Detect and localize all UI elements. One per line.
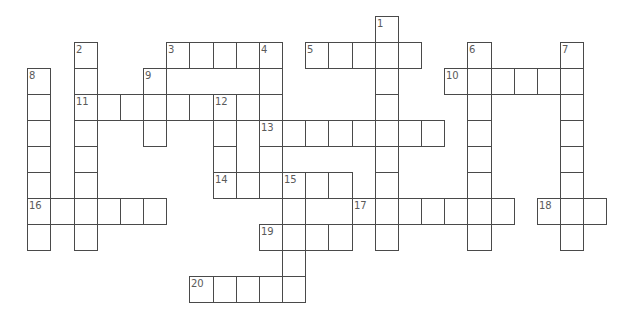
crossword-cell[interactable]: [328, 120, 353, 147]
cell-letter-input[interactable]: [214, 43, 236, 68]
crossword-cell[interactable]: 3: [166, 42, 190, 69]
cell-letter-input[interactable]: [75, 225, 97, 250]
crossword-cell[interactable]: [97, 94, 121, 121]
cell-letter-input[interactable]: [561, 43, 583, 68]
crossword-cell[interactable]: [305, 172, 329, 199]
crossword-cell[interactable]: [375, 198, 399, 225]
crossword-cell[interactable]: 2: [74, 42, 98, 69]
cell-letter-input[interactable]: [283, 277, 305, 302]
crossword-cell[interactable]: [467, 172, 492, 199]
crossword-cell[interactable]: [398, 198, 422, 225]
crossword-cell[interactable]: 4: [259, 42, 283, 69]
crossword-cell[interactable]: [305, 224, 329, 251]
crossword-cell[interactable]: 17: [352, 198, 376, 225]
crossword-cell[interactable]: [74, 146, 98, 173]
crossword-cell[interactable]: [213, 146, 237, 173]
cell-letter-input[interactable]: [75, 69, 97, 94]
crossword-cell[interactable]: [259, 94, 283, 121]
cell-letter-input[interactable]: [376, 173, 398, 198]
cell-letter-input[interactable]: [561, 173, 583, 198]
crossword-cell[interactable]: [352, 42, 376, 69]
crossword-cell[interactable]: [514, 68, 538, 95]
cell-letter-input[interactable]: [561, 199, 583, 224]
cell-letter-input[interactable]: [214, 277, 236, 302]
crossword-cell[interactable]: [467, 94, 492, 121]
cell-letter-input[interactable]: [28, 199, 50, 224]
cell-letter-input[interactable]: [51, 199, 74, 224]
crossword-cell[interactable]: [236, 94, 260, 121]
crossword-cell[interactable]: [259, 172, 283, 199]
cell-letter-input[interactable]: [260, 277, 282, 302]
crossword-cell[interactable]: [282, 250, 306, 277]
crossword-cell[interactable]: 20: [189, 276, 214, 303]
crossword-cell[interactable]: [398, 120, 422, 147]
cell-letter-input[interactable]: [468, 225, 491, 250]
cell-letter-input[interactable]: [260, 173, 282, 198]
cell-letter-input[interactable]: [190, 95, 213, 120]
cell-letter-input[interactable]: [214, 147, 236, 172]
cell-letter-input[interactable]: [329, 121, 352, 146]
crossword-cell[interactable]: [328, 42, 353, 69]
cell-letter-input[interactable]: [376, 121, 398, 146]
crossword-cell[interactable]: [50, 198, 75, 225]
crossword-cell[interactable]: [74, 68, 98, 95]
cell-letter-input[interactable]: [75, 121, 97, 146]
cell-letter-input[interactable]: [561, 225, 583, 250]
cell-letter-input[interactable]: [98, 95, 120, 120]
cell-letter-input[interactable]: [329, 43, 352, 68]
cell-letter-input[interactable]: [237, 277, 259, 302]
crossword-cell[interactable]: [97, 198, 121, 225]
crossword-cell[interactable]: [213, 276, 237, 303]
cell-letter-input[interactable]: [190, 277, 213, 302]
cell-letter-input[interactable]: [468, 43, 491, 68]
crossword-cell[interactable]: [213, 120, 237, 147]
cell-letter-input[interactable]: [144, 199, 166, 224]
crossword-cell[interactable]: [27, 172, 51, 199]
crossword-cell[interactable]: [560, 224, 584, 251]
crossword-cell[interactable]: 18: [537, 198, 561, 225]
cell-letter-input[interactable]: [353, 199, 375, 224]
crossword-cell[interactable]: 7: [560, 42, 584, 69]
crossword-cell[interactable]: [491, 68, 515, 95]
crossword-cell[interactable]: [560, 68, 584, 95]
cell-letter-input[interactable]: [260, 95, 282, 120]
cell-letter-input[interactable]: [329, 225, 352, 250]
crossword-cell[interactable]: [120, 198, 144, 225]
cell-letter-input[interactable]: [561, 69, 583, 94]
crossword-cell[interactable]: [305, 120, 329, 147]
cell-letter-input[interactable]: [167, 95, 189, 120]
cell-letter-input[interactable]: [468, 173, 491, 198]
cell-letter-input[interactable]: [214, 173, 236, 198]
cell-letter-input[interactable]: [190, 43, 213, 68]
crossword-cell[interactable]: [328, 172, 353, 199]
cell-letter-input[interactable]: [75, 147, 97, 172]
crossword-cell[interactable]: [282, 224, 306, 251]
crossword-cell[interactable]: 5: [305, 42, 329, 69]
cell-letter-input[interactable]: [329, 173, 352, 198]
crossword-cell[interactable]: [120, 94, 144, 121]
crossword-cell[interactable]: [375, 172, 399, 199]
crossword-cell[interactable]: [375, 120, 399, 147]
crossword-cell[interactable]: [467, 68, 492, 95]
cell-letter-input[interactable]: [75, 95, 97, 120]
cell-letter-input[interactable]: [399, 199, 421, 224]
cell-letter-input[interactable]: [422, 121, 444, 146]
crossword-cell[interactable]: [398, 42, 422, 69]
crossword-cell[interactable]: [444, 198, 468, 225]
cell-letter-input[interactable]: [260, 147, 282, 172]
cell-letter-input[interactable]: [283, 173, 305, 198]
cell-letter-input[interactable]: [98, 199, 120, 224]
crossword-cell[interactable]: [236, 276, 260, 303]
cell-letter-input[interactable]: [121, 199, 143, 224]
cell-letter-input[interactable]: [376, 17, 398, 42]
crossword-cell[interactable]: 11: [74, 94, 98, 121]
crossword-cell[interactable]: [467, 146, 492, 173]
cell-letter-input[interactable]: [283, 121, 305, 146]
cell-letter-input[interactable]: [468, 199, 491, 224]
cell-letter-input[interactable]: [260, 43, 282, 68]
crossword-cell[interactable]: [282, 198, 306, 225]
crossword-cell[interactable]: 16: [27, 198, 51, 225]
cell-letter-input[interactable]: [283, 225, 305, 250]
crossword-cell[interactable]: [143, 120, 167, 147]
cell-letter-input[interactable]: [538, 69, 560, 94]
